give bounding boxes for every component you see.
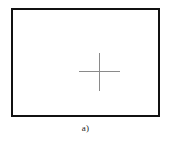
- figure-frame-rectangle: [11, 8, 160, 117]
- figure-panel: a): [0, 0, 171, 145]
- crosshair-vertical-arm: [99, 53, 100, 91]
- figure-caption: a): [0, 123, 171, 134]
